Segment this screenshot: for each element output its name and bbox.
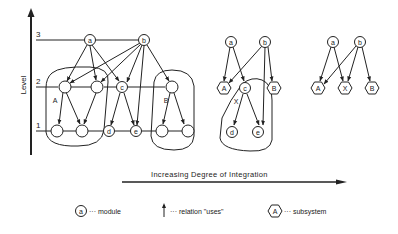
level-2-label: 2 — [36, 77, 41, 86]
integration-diagram: Level 3 2 1 — [0, 0, 398, 234]
node-b: b — [263, 39, 267, 46]
legend-relation: ··· relation "uses" — [170, 208, 224, 215]
graph-2-partial-integration — [217, 37, 281, 152]
legend-module: ··· module — [89, 208, 121, 215]
node-e: e — [134, 128, 138, 135]
node-d: d — [230, 129, 234, 136]
node-d: d — [107, 128, 111, 135]
subsystem-B-label: B — [164, 97, 169, 104]
node-a: a — [229, 39, 233, 46]
node-a: a — [88, 37, 92, 44]
node-e: e — [256, 129, 260, 136]
node-b: b — [358, 39, 362, 46]
level-3-label: 3 — [36, 30, 41, 39]
node-c: c — [120, 84, 124, 91]
integration-axis: Increasing Degree of Integration — [122, 170, 347, 185]
graph-1-full-hierarchy — [36, 35, 194, 151]
legend: a ··· module ··· relation "uses" A ··· s… — [76, 203, 327, 217]
node-c: c — [243, 85, 247, 92]
node-a: a — [331, 39, 335, 46]
legend-subsystem: ··· subsystem — [284, 208, 327, 216]
svg-text:a: a — [79, 208, 83, 215]
level-axis: Level 3 2 1 — [19, 8, 41, 155]
subsystem-B: B — [370, 85, 375, 92]
subsystem-A-label: A — [53, 97, 58, 104]
node-b: b — [142, 37, 146, 44]
subsystem-X: X — [343, 85, 348, 92]
level-axis-label: Level — [19, 75, 28, 94]
svg-text:A: A — [273, 208, 278, 215]
subsystem-A: A — [222, 85, 227, 92]
subsystem-B: B — [272, 85, 277, 92]
level-1-label: 1 — [36, 121, 41, 130]
integration-axis-label: Increasing Degree of Integration — [151, 170, 268, 179]
subsystem-X-label: X — [234, 98, 239, 105]
subsystem-A: A — [316, 85, 321, 92]
